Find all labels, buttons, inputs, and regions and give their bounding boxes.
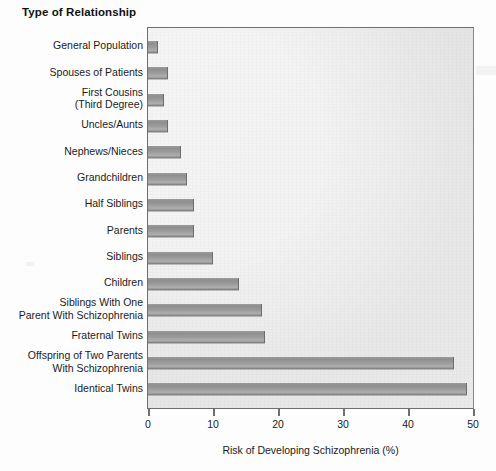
y-axis-label: Fraternal Twins bbox=[0, 329, 143, 342]
y-axis-label: Uncles/Aunts bbox=[0, 118, 143, 131]
y-axis-label: Spouses of Patients bbox=[0, 66, 143, 79]
bar bbox=[148, 67, 168, 79]
bar bbox=[148, 331, 265, 343]
bar bbox=[148, 41, 158, 53]
x-axis-tick-label: 0 bbox=[145, 418, 151, 430]
x-axis-tick-label: 50 bbox=[467, 418, 479, 430]
bar bbox=[148, 252, 213, 264]
y-axis-label: Siblings With One Parent With Schizophre… bbox=[0, 296, 143, 321]
x-axis-tick bbox=[343, 409, 345, 416]
bar bbox=[148, 199, 194, 211]
x-axis-tick-label: 40 bbox=[402, 418, 414, 430]
y-axis-label: Siblings bbox=[0, 250, 143, 263]
x-axis-tick-label: 30 bbox=[337, 418, 349, 430]
plot-background-texture bbox=[148, 28, 473, 408]
bar bbox=[148, 120, 168, 132]
scan-artifact bbox=[26, 262, 34, 266]
x-axis-tick bbox=[278, 409, 280, 416]
bar bbox=[148, 225, 194, 237]
bar bbox=[148, 94, 164, 106]
x-axis-tick bbox=[408, 409, 410, 416]
bar bbox=[148, 173, 187, 185]
bar bbox=[148, 146, 181, 158]
bar bbox=[148, 304, 262, 316]
scan-artifact bbox=[476, 66, 496, 75]
y-axis-label: First Cousins (Third Degree) bbox=[0, 86, 143, 111]
x-axis-tick bbox=[473, 409, 475, 416]
x-axis-tick-label: 20 bbox=[272, 418, 284, 430]
plot-area bbox=[147, 27, 474, 409]
x-axis-title: Risk of Developing Schizophrenia (%) bbox=[147, 444, 474, 456]
chart-title: Type of Relationship bbox=[22, 6, 136, 18]
y-axis-label: Offspring of Two Parents With Schizophre… bbox=[0, 349, 143, 374]
y-axis-label: General Population bbox=[0, 39, 143, 52]
chart-page: Type of Relationship General PopulationS… bbox=[0, 0, 496, 471]
bar bbox=[148, 357, 454, 369]
y-axis-label: Grandchildren bbox=[0, 171, 143, 184]
bar bbox=[148, 383, 467, 395]
bar bbox=[148, 278, 239, 290]
x-axis-tick bbox=[213, 409, 215, 416]
y-axis-label: Parents bbox=[0, 224, 143, 237]
y-axis-label: Identical Twins bbox=[0, 382, 143, 395]
y-axis-label: Half Siblings bbox=[0, 197, 143, 210]
y-axis-label: Nephews/Nieces bbox=[0, 145, 143, 158]
x-axis-tick bbox=[148, 409, 150, 416]
x-axis-tick-label: 10 bbox=[207, 418, 219, 430]
y-axis-label: Children bbox=[0, 276, 143, 289]
